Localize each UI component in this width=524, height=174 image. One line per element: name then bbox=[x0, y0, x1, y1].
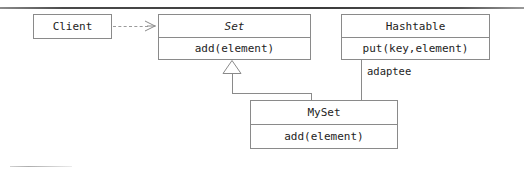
class-name-client: Client bbox=[34, 15, 111, 38]
hollow-triangle-arrowhead-icon bbox=[222, 60, 242, 74]
class-operation-myset-add: add(element) bbox=[251, 124, 397, 148]
open-arrowhead-icon bbox=[144, 20, 156, 32]
association-line-hashtable-myset bbox=[361, 60, 362, 101]
page-top-rule bbox=[0, 7, 524, 9]
uml-class-diagram: Client Set add(element) Hashtable put(ke… bbox=[0, 0, 524, 174]
class-box-client[interactable]: Client bbox=[33, 14, 112, 39]
class-name-hashtable: Hashtable bbox=[342, 15, 489, 37]
class-box-myset[interactable]: MySet add(element) bbox=[250, 100, 398, 149]
class-operation-set-add: add(element) bbox=[159, 37, 310, 59]
class-box-set[interactable]: Set add(element) bbox=[158, 14, 311, 60]
class-name-myset: MySet bbox=[251, 101, 397, 124]
class-box-hashtable[interactable]: Hashtable put(key,element) bbox=[341, 14, 490, 60]
generalization-segment-horizontal bbox=[232, 93, 312, 94]
page-bottom-rule bbox=[10, 166, 72, 167]
class-name-set: Set bbox=[159, 15, 310, 37]
class-operation-hashtable-put: put(key,element) bbox=[342, 37, 489, 59]
dependency-line-client-set bbox=[113, 26, 148, 27]
generalization-segment-vertical-upper bbox=[232, 73, 233, 93]
association-role-label-adaptee: adaptee bbox=[367, 66, 411, 77]
